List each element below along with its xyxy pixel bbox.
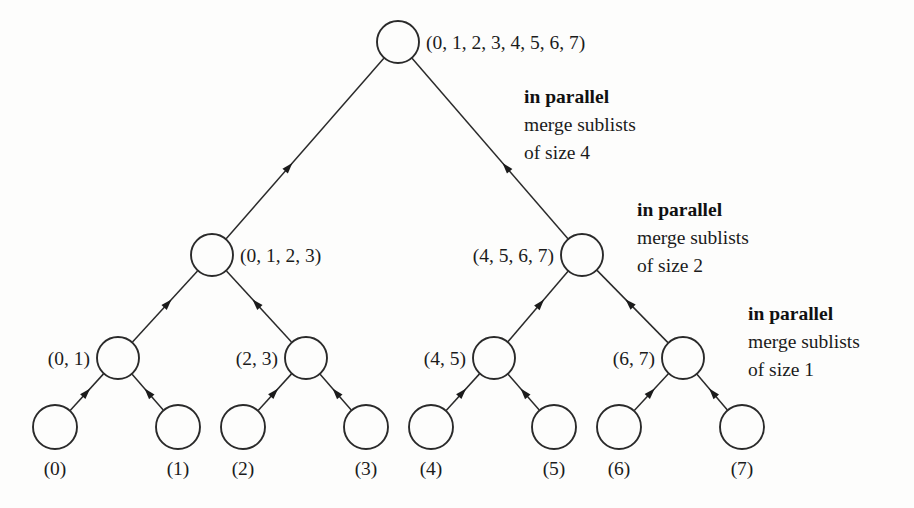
node-label-pair-67: (6, 7) — [613, 348, 655, 370]
annotation-line-2: merge sublists — [524, 114, 636, 135]
tree-node-left-half[interactable] — [191, 234, 233, 276]
tree-node-leaf-4[interactable] — [409, 405, 453, 449]
annotation-title: in parallel — [524, 86, 610, 107]
tree-node-pair-01[interactable] — [97, 337, 139, 379]
tree-node-right-half[interactable] — [561, 234, 603, 276]
tree-canvas: (0, 1, 2, 3, 4, 5, 6, 7)(0, 1, 2, 3)(4, … — [0, 0, 914, 508]
node-label-leaf-3: (3) — [355, 458, 378, 480]
tree-node-leaf-3[interactable] — [344, 405, 388, 449]
annotation-line-3: of size 4 — [524, 142, 590, 163]
tree-node-leaf-5[interactable] — [532, 405, 576, 449]
node-label-pair-23: (2, 3) — [236, 348, 278, 370]
tree-node-pair-45[interactable] — [473, 337, 515, 379]
node-label-leaf-1: (1) — [167, 458, 190, 480]
tree-node-leaf-6[interactable] — [597, 405, 641, 449]
tree-node-pair-67[interactable] — [662, 337, 704, 379]
annotation-line-3: of size 1 — [748, 359, 814, 380]
node-label-right-half: (4, 5, 6, 7) — [473, 245, 554, 267]
node-label-root: (0, 1, 2, 3, 4, 5, 6, 7) — [426, 32, 585, 54]
annotation-anno-size-2: in parallelmerge sublistsof size 2 — [637, 199, 749, 276]
annotations-group: in parallelmerge sublistsof size 4in par… — [524, 86, 860, 380]
node-label-leaf-4: (4) — [420, 458, 443, 480]
annotation-anno-size-4: in parallelmerge sublistsof size 4 — [524, 86, 636, 163]
annotation-line-2: merge sublists — [748, 331, 860, 352]
annotation-title: in parallel — [748, 303, 834, 324]
node-label-leaf-6: (6) — [608, 458, 631, 480]
annotation-title: in parallel — [637, 199, 723, 220]
annotation-anno-size-1: in parallelmerge sublistsof size 1 — [748, 303, 860, 380]
node-label-pair-01: (0, 1) — [48, 348, 90, 370]
tree-node-leaf-1[interactable] — [156, 405, 200, 449]
node-label-leaf-5: (5) — [543, 458, 566, 480]
node-label-pair-45: (4, 5) — [424, 348, 466, 370]
node-label-left-half: (0, 1, 2, 3) — [240, 245, 321, 267]
annotation-line-3: of size 2 — [637, 255, 703, 276]
annotation-line-2: merge sublists — [637, 227, 749, 248]
merge-sort-tree-diagram: (0, 1, 2, 3, 4, 5, 6, 7)(0, 1, 2, 3)(4, … — [0, 0, 914, 508]
node-label-leaf-7: (7) — [731, 458, 754, 480]
tree-node-leaf-7[interactable] — [720, 405, 764, 449]
tree-node-leaf-2[interactable] — [221, 405, 265, 449]
node-label-leaf-0: (0) — [44, 458, 67, 480]
tree-node-root[interactable] — [377, 21, 419, 63]
node-label-leaf-2: (2) — [232, 458, 255, 480]
tree-edge-left-half-to-root — [226, 58, 384, 239]
tree-node-leaf-0[interactable] — [33, 405, 77, 449]
tree-node-pair-23[interactable] — [285, 337, 327, 379]
